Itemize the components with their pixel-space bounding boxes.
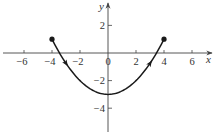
x-tick-label: 0 bbox=[105, 56, 110, 67]
y-tick-label: −2 bbox=[94, 75, 105, 86]
x-tick-label: −6 bbox=[16, 56, 27, 67]
y-tick-label: 2 bbox=[100, 20, 105, 31]
end-point-marker bbox=[161, 37, 166, 42]
start-point-marker bbox=[49, 37, 54, 42]
y-axis-label: y bbox=[98, 0, 104, 12]
x-tick-label: −2 bbox=[72, 56, 83, 67]
x-tick-label: −4 bbox=[44, 56, 56, 67]
axes bbox=[3, 3, 212, 132]
x-axis-label: x bbox=[205, 53, 211, 65]
x-tick-label: 4 bbox=[161, 56, 167, 67]
x-tick-label: 6 bbox=[189, 56, 194, 67]
y-tick-label: −4 bbox=[94, 103, 106, 114]
axis-ticks: −6−4−202462−2−4 bbox=[16, 20, 194, 114]
x-tick-label: 2 bbox=[133, 56, 138, 67]
parametric-curve-plot: −6−4−202462−2−4 xy bbox=[0, 0, 216, 135]
